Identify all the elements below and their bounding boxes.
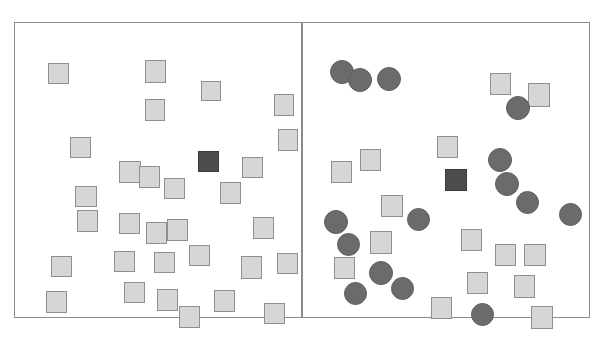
- distractor-square: [77, 210, 98, 232]
- distractor-square: [490, 73, 511, 95]
- distractor-square: [167, 219, 188, 241]
- distractor-square: [461, 229, 482, 251]
- distractor-circle: [344, 282, 367, 305]
- distractor-circle: [337, 233, 360, 256]
- distractor-square: [146, 222, 167, 244]
- distractor-square: [189, 245, 210, 266]
- distractor-square: [431, 297, 452, 319]
- distractor-square: [264, 303, 285, 324]
- distractor-square: [437, 136, 458, 158]
- distractor-square: [278, 129, 298, 151]
- distractor-square: [467, 272, 488, 294]
- distractor-square: [154, 252, 175, 273]
- distractor-square: [241, 256, 262, 279]
- distractor-square: [51, 256, 72, 277]
- distractor-square: [381, 195, 403, 217]
- distractor-square: [201, 81, 221, 101]
- distractor-circle: [324, 210, 348, 234]
- distractor-circle: [407, 208, 430, 231]
- distractor-square: [334, 257, 355, 279]
- distractor-square: [242, 157, 263, 178]
- distractor-square: [145, 99, 165, 121]
- distractor-circle: [348, 68, 372, 92]
- distractor-circle: [488, 148, 512, 172]
- distractor-square: [495, 244, 516, 266]
- distractor-square: [70, 137, 91, 158]
- distractor-square: [164, 178, 185, 199]
- distractor-circle: [516, 191, 539, 214]
- distractor-circle: [391, 277, 414, 300]
- distractor-square: [75, 186, 97, 207]
- distractor-square: [514, 275, 535, 298]
- distractor-square: [531, 306, 553, 329]
- target-square: [445, 169, 467, 191]
- distractor-square: [119, 161, 141, 183]
- distractor-square: [124, 282, 145, 303]
- distractor-square: [157, 289, 178, 311]
- distractor-square: [214, 290, 235, 312]
- distractor-square: [179, 306, 200, 328]
- visual-search-figure: [0, 0, 603, 337]
- distractor-square: [524, 244, 546, 266]
- distractor-circle: [369, 261, 393, 285]
- conjunction-search-panel: [302, 22, 590, 318]
- distractor-square: [220, 182, 241, 204]
- target-square: [198, 151, 219, 172]
- distractor-square: [139, 166, 160, 188]
- distractor-square: [331, 161, 352, 183]
- distractor-square: [46, 291, 67, 313]
- distractor-square: [277, 253, 298, 274]
- distractor-square: [370, 231, 392, 254]
- distractor-circle: [559, 203, 582, 226]
- distractor-square: [48, 63, 69, 84]
- distractor-circle: [377, 67, 401, 91]
- distractor-square: [360, 149, 381, 171]
- distractor-circle: [506, 96, 530, 120]
- distractor-square: [119, 213, 140, 234]
- distractor-square: [253, 217, 274, 239]
- distractor-square: [274, 94, 294, 116]
- distractor-circle: [471, 303, 494, 326]
- distractor-circle: [495, 172, 519, 196]
- distractor-square: [528, 83, 550, 107]
- feature-search-panel: [14, 22, 302, 318]
- distractor-square: [114, 251, 135, 272]
- distractor-square: [145, 60, 166, 83]
